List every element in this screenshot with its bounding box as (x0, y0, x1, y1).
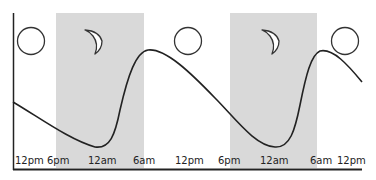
sun-icon (332, 28, 359, 55)
tick-label: 6pm (47, 155, 69, 166)
tick-label: 12am (260, 155, 289, 166)
tick-label: 12pm (175, 155, 204, 166)
tick-label: 12pm (337, 155, 366, 166)
sun-icon (175, 28, 202, 55)
sun-icon (18, 28, 45, 55)
day-night-cycle-diagram: 12pm 6pm 12am 6am 12pm 6pm 12am 6am 12pm (0, 0, 376, 180)
tick-label: 6am (133, 155, 155, 166)
tick-label: 12am (88, 155, 117, 166)
tick-label: 6pm (218, 155, 240, 166)
tick-label: 6am (310, 155, 332, 166)
tick-label: 12pm (15, 155, 44, 166)
